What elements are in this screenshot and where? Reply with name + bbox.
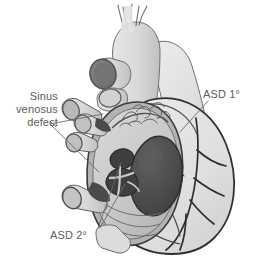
label-asd-primum: ASD 1°	[203, 88, 240, 101]
inferior-vena-cava-stump	[59, 182, 110, 213]
label-sinus-venosus-defect: Sinus venosus defect	[4, 90, 58, 129]
label-asd-secundum: ASD 2°	[50, 229, 87, 242]
heart-illustration	[0, 0, 265, 267]
anatomical-figure: Sinus venosus defect ASD 1° ASD 2°	[0, 0, 265, 267]
superior-vena-cava-stump	[87, 57, 131, 92]
